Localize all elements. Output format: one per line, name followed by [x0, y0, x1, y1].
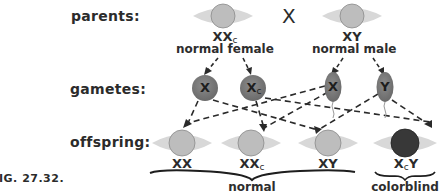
parent-female-description: normal female	[176, 42, 272, 56]
group-label-colorblind: colorblind	[370, 180, 440, 194]
offspring-genotype-xy: XY	[308, 156, 348, 171]
parent-male-description: normal male	[312, 42, 396, 56]
gamete-label-xc: Xc	[242, 80, 266, 96]
cross-symbol: X	[282, 4, 296, 28]
parent-to-gamete-arrows	[208, 58, 381, 70]
arrowheads	[204, 67, 384, 75]
gamete-label-x: X	[195, 80, 215, 95]
offspring-xxc-eye-icon	[221, 130, 281, 156]
offspring-xx-eye-icon	[152, 130, 212, 156]
figure-label: IG. 27.32.	[0, 172, 64, 185]
fertilization-arrowheads	[183, 119, 432, 134]
offspring-genotype-xxc: XXc	[228, 156, 276, 172]
group-label-normal: normal	[222, 180, 282, 194]
row-label-parents: parents:	[71, 8, 140, 24]
row-label-gametes: gametes:	[70, 81, 146, 97]
row-label-offspring: offspring:	[70, 134, 150, 150]
colorblind-brace	[375, 172, 435, 180]
offspring-genotype-xcy: XcY	[384, 156, 428, 172]
parent-female-eye-icon	[193, 4, 253, 28]
gamete-label-sperm-x: X	[323, 79, 343, 94]
offspring-xcy-eye-icon	[373, 129, 437, 157]
parent-male-eye-icon	[322, 4, 382, 28]
offspring-genotype-xx: XX	[162, 156, 202, 171]
offspring-xy-eye-icon	[298, 130, 358, 156]
gamete-label-sperm-y: Y	[375, 79, 395, 94]
